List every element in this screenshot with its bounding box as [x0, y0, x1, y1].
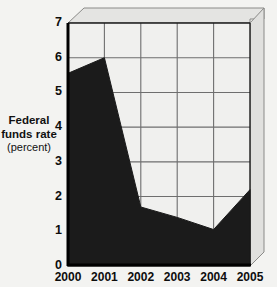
chart-container: 7 6 5 4 3 2 1 0 2000 2001 2002 2003 2004…	[0, 0, 277, 287]
x-tick-2000: 2000	[48, 270, 88, 284]
y-tick-1: 1	[48, 223, 62, 237]
y-axis-title-line-3: (percent)	[0, 141, 58, 154]
x-tick-2004: 2004	[194, 270, 234, 284]
x-tick-2001: 2001	[84, 270, 124, 284]
y-axis-title: Federal funds rate (percent)	[0, 114, 58, 154]
y-axis-title-line-2: funds rate	[0, 128, 58, 142]
x-tick-2002: 2002	[121, 270, 161, 284]
y-tick-5: 5	[48, 84, 62, 98]
y-tick-3: 3	[48, 154, 62, 168]
x-tick-2003: 2003	[157, 270, 197, 284]
frame-top-face	[68, 8, 264, 23]
y-tick-7: 7	[48, 15, 62, 29]
x-tick-2005: 2005	[230, 270, 270, 284]
y-axis-title-line-1: Federal	[0, 114, 58, 128]
y-tick-6: 6	[48, 50, 62, 64]
y-tick-2: 2	[48, 189, 62, 203]
frame-right-face	[250, 8, 264, 266]
